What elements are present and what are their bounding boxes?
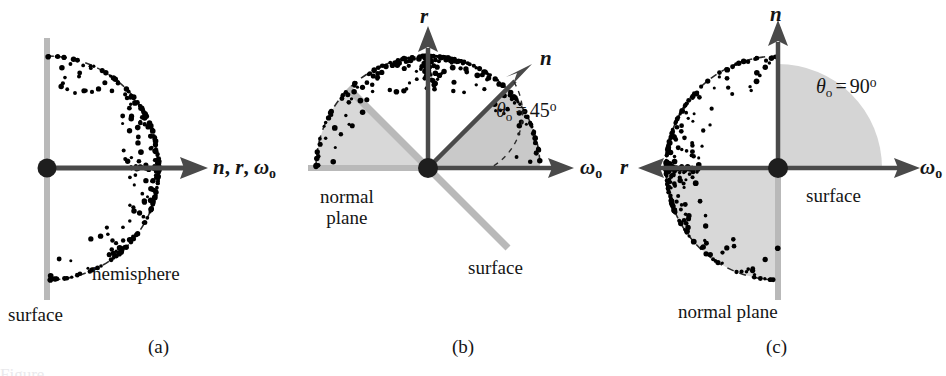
- theta-angle-label: θo=45o: [496, 100, 557, 123]
- label-omega: ω: [580, 155, 595, 179]
- label-omega: ω: [920, 155, 935, 179]
- surface-label: surface: [468, 258, 523, 277]
- panel-c-graphic: [620, 0, 946, 340]
- axis-label-n: n: [770, 4, 782, 25]
- normal-plane-label: normal plane: [320, 186, 374, 229]
- surface-label: surface: [806, 186, 861, 205]
- panel-caption-c: (c): [766, 336, 787, 358]
- theta-angle-label: θo=90o: [816, 76, 877, 99]
- axis-arrowhead-n: [506, 64, 532, 84]
- axis-label-n-r-omega: n, r, ωo: [213, 157, 276, 181]
- axis-label-r: r: [620, 157, 628, 178]
- theta-value: 90: [850, 75, 870, 97]
- degree-symbol: o: [550, 99, 557, 114]
- normal-plane-label-line2: plane: [320, 207, 374, 228]
- degree-symbol: o: [870, 75, 877, 90]
- panel-b: r n ωo θo=45o normal plane surface (b): [300, 0, 640, 376]
- axis-arrowhead-nromega: [180, 157, 208, 179]
- hemisphere-label: hemisphere: [92, 264, 180, 283]
- theta-equals: =: [832, 75, 849, 97]
- label-n: n: [213, 155, 225, 179]
- label-omega: ω: [254, 155, 269, 179]
- figure-caption-text: Figure: [0, 366, 946, 376]
- theta-value: 45: [530, 99, 550, 121]
- origin-point: [418, 158, 438, 178]
- surface-label: surface: [8, 305, 63, 324]
- normal-plane-label: normal plane: [678, 302, 778, 321]
- axis-label-omega-o: ωo: [580, 157, 602, 181]
- origin-point: [38, 159, 57, 178]
- label-omega-subscript: o: [269, 166, 276, 181]
- normal-plane-label-line1: normal: [320, 186, 374, 207]
- origin-point: [768, 158, 788, 178]
- panel-a: n, r, ωo hemisphere surface (a): [0, 0, 310, 376]
- theta-equals: =: [512, 99, 529, 121]
- panel-c: n r ωo θo=90o surface normal plane (c): [620, 0, 946, 376]
- figure-root: n, r, ωo hemisphere surface (a): [0, 0, 946, 376]
- label-omega-subscript: o: [595, 166, 602, 181]
- panel-caption-b: (b): [452, 336, 474, 358]
- axis-label-r: r: [420, 6, 428, 27]
- figure-caption-clipped: Figure: [0, 366, 946, 376]
- axis-label-omega-o: ωo: [920, 157, 942, 181]
- label-omega-subscript: o: [935, 166, 942, 181]
- theta-symbol: θ: [816, 75, 826, 97]
- theta-symbol: θ: [496, 99, 506, 121]
- panel-caption-a: (a): [148, 336, 169, 358]
- axis-label-n: n: [540, 48, 552, 69]
